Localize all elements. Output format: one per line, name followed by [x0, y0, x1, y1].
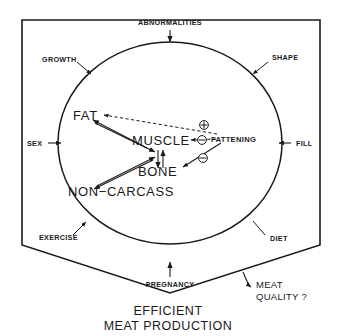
diagram-canvas: ABNORMALITIES GROWTH SHAPE SEX FILL EXER…	[0, 0, 337, 336]
label-fattening: FATTENING	[211, 135, 256, 144]
label-fat: FAT	[73, 108, 98, 123]
label-pregnancy: PREGNANCY	[146, 280, 195, 289]
sign-minus-bone	[199, 154, 208, 163]
sign-plus-fat	[200, 121, 209, 130]
label-non-carcass: NON−CARCASS	[68, 184, 174, 199]
arrow-growth	[77, 62, 91, 74]
label-muscle: MUSCLE	[132, 133, 190, 148]
label-meat-quality-line1: MEAT	[256, 279, 283, 290]
figure-title-line2: MEAT PRODUCTION	[104, 319, 233, 333]
label-exercise: EXERCISE	[39, 233, 78, 242]
label-bone: BONE	[138, 164, 177, 179]
label-diet: DIET	[270, 234, 288, 243]
label-growth: GROWTH	[42, 55, 77, 64]
label-sex: SEX	[27, 139, 42, 148]
figure-title-line1: EFFICIENT	[133, 304, 202, 318]
arrow-shape	[253, 62, 268, 74]
arrow-diet	[253, 221, 265, 235]
label-fill: FILL	[296, 139, 313, 148]
sign-minus-muscle	[198, 136, 207, 145]
label-shape: SHAPE	[272, 53, 298, 62]
label-meat-quality-line2: QUALITY ?	[256, 291, 307, 302]
label-abnormalities: ABNORMALITIES	[138, 18, 202, 27]
meat-quality-hook	[243, 272, 251, 287]
